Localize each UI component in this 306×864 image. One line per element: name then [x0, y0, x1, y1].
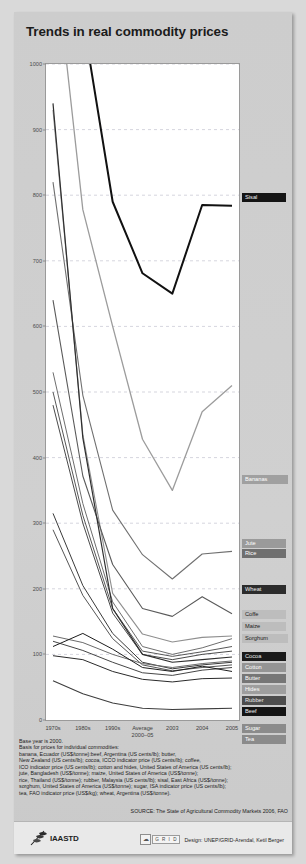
chart-line-sorghum — [53, 405, 232, 660]
legend-item-rubber[interactable]: Rubber — [242, 696, 286, 705]
y-axis-tick-label: 0 — [16, 717, 42, 723]
design-credit-block: ☁ G R I D Design: UNEP/GRID-Arendal, Ket… — [140, 834, 284, 845]
y-axis-tick-label: 200 — [16, 586, 42, 592]
design-credit-text: Design: UNEP/GRID-Arendal, Ketil Berger — [184, 837, 284, 843]
legend-item-bananas[interactable]: Bananas — [242, 475, 288, 484]
y-axis-tick-label: 300 — [16, 520, 42, 526]
y-axis-tick — [43, 129, 46, 130]
legend-item-sisal[interactable]: Sisal — [242, 193, 286, 202]
poster-card: Trends in real commodity prices 01002003… — [14, 12, 292, 854]
y-axis-tick — [43, 654, 46, 655]
chart-line-sugar — [53, 681, 232, 710]
page-title: Trends in real commodity prices — [26, 24, 276, 39]
y-axis-tick — [43, 720, 46, 721]
poster-footer: IAASTD ☁ G R I D Design: UNEP/GRID-Arend… — [14, 821, 292, 854]
chart-source: SOURCE: The State of Agricultural Commod… — [131, 808, 288, 814]
iaastd-logo: IAASTD — [28, 829, 79, 847]
y-axis-tick — [43, 588, 46, 589]
chart-series-canvas — [46, 64, 239, 720]
chart-plot-area — [45, 63, 240, 721]
chart-footnotes: Base year is 2000.Basis for prices for i… — [19, 738, 287, 796]
y-axis-tick-label: 900 — [16, 127, 42, 133]
iaastd-logo-text: IAASTD — [50, 834, 79, 843]
legend-item-beef[interactable]: Beef — [242, 707, 286, 716]
y-axis-tick-label: 100 — [16, 651, 42, 657]
legend-item-sorghum[interactable]: Sorghum — [242, 634, 288, 643]
legend-item-rice[interactable]: Rice — [242, 549, 286, 558]
legend-item-sugar[interactable]: Sugar — [242, 724, 286, 733]
legend-item-cotton[interactable]: Cotton — [242, 663, 286, 672]
chart-line-bananas — [53, 64, 232, 490]
legend-item-hides[interactable]: Hides — [242, 685, 286, 694]
legend-item-wheat[interactable]: Wheat — [242, 585, 286, 594]
chart-line-maize — [53, 392, 232, 656]
y-axis-tick — [43, 195, 46, 196]
y-axis-tick-label: 800 — [16, 192, 42, 198]
legend-item-coffe[interactable]: Coffe — [242, 610, 286, 619]
footnote-line: tea, FAO indicator price (US$/kg); wheat… — [19, 790, 287, 796]
chart-line-beef — [53, 633, 232, 671]
y-axis-tick — [43, 64, 46, 65]
chart-line-wheat — [53, 300, 232, 616]
y-axis-tick-label: 600 — [16, 323, 42, 329]
chart-legend: SisalBananasJuteRiceWheatCoffeMaizeSorgh… — [242, 63, 294, 731]
y-axis-tick-label: 400 — [16, 455, 42, 461]
leaf-icon — [28, 829, 48, 847]
chart-line-hides — [53, 636, 232, 667]
chart-line-rice — [53, 182, 232, 579]
y-axis-tick-label: 1000 — [16, 61, 42, 67]
y-axis-tick — [43, 457, 46, 458]
y-axis-tick — [43, 523, 46, 524]
unep-icon: ☁ — [140, 834, 151, 845]
y-axis-tick — [43, 392, 46, 393]
legend-item-maize[interactable]: Maize — [242, 622, 286, 631]
legend-item-jute[interactable]: Jute — [242, 539, 286, 548]
y-axis-tick — [43, 260, 46, 261]
y-axis-tick-label: 500 — [16, 389, 42, 395]
y-axis-tick — [43, 326, 46, 327]
chart-container: 010020030040050060070080090010001970s198… — [45, 63, 240, 731]
grid-mark-text: G R I D — [152, 835, 180, 844]
unep-grid-mark: ☁ G R I D — [140, 834, 180, 845]
chart-line-cotton — [53, 513, 232, 668]
legend-item-cocoa[interactable]: Cocoa — [242, 652, 286, 661]
legend-item-butter[interactable]: Butter — [242, 674, 286, 683]
y-axis-tick-label: 700 — [16, 258, 42, 264]
